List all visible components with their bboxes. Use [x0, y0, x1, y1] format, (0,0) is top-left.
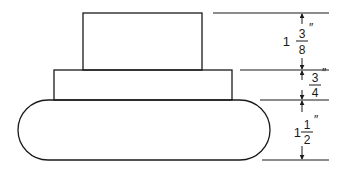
label-whole: 1 — [283, 34, 290, 49]
label-whole: 1 — [294, 125, 301, 140]
label-unit: ″ — [309, 21, 314, 35]
dimension-label-top: 1 3 8 ″ — [283, 21, 314, 57]
top-block — [83, 13, 202, 70]
label-numerator: 3 — [299, 27, 306, 41]
dimension-diagram: 1 3 8 ″ 3 4 ″ 1 1 2 ″ — [0, 0, 347, 170]
label-denominator: 2 — [304, 133, 311, 147]
base-block — [18, 100, 270, 160]
label-numerator: 3 — [312, 71, 319, 85]
dimension-label-bottom: 1 1 2 ″ — [294, 113, 319, 147]
label-denominator: 4 — [312, 86, 319, 100]
label-unit: ″ — [314, 113, 319, 127]
label-denominator: 8 — [299, 43, 306, 57]
label-unit: ″ — [322, 66, 327, 80]
middle-block — [54, 70, 232, 100]
dimension-label-middle: 3 4 ″ — [309, 66, 327, 100]
label-numerator: 1 — [304, 118, 311, 132]
